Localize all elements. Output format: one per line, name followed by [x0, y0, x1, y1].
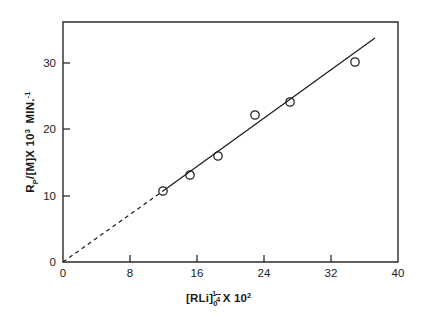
x-axis-multiplier-exponent: 2 — [247, 291, 251, 300]
figure-container: 0 8 16 24 32 40 0 10 20 30 — [0, 0, 424, 319]
y-axis-units-exponent: -1 — [23, 91, 32, 99]
x-tick-label-8: 8 — [127, 267, 133, 279]
x-tick-label-16: 16 — [191, 267, 204, 279]
y-axis-divider: /[M]X 10 — [24, 133, 36, 179]
x-axis-species: RLi — [190, 292, 209, 304]
x-tick-label-24: 24 — [258, 267, 271, 279]
y-tick-label-30: 30 — [43, 57, 56, 69]
x-tick-label-0: 0 — [60, 267, 66, 279]
x-axis-multiplier: X 10 — [223, 292, 247, 304]
y-tick-label-0: 0 — [50, 256, 56, 268]
y-tick-label-10: 10 — [43, 190, 56, 202]
x-tick-label-32: 32 — [325, 267, 338, 279]
x-tick-label-40: 40 — [392, 267, 405, 279]
scatter-plot: 0 8 16 24 32 40 0 10 20 30 — [0, 0, 424, 319]
y-tick-label-20: 20 — [43, 123, 56, 135]
x-axis-exponent-denominator: 4 — [216, 296, 220, 303]
y-axis-units: MIN. — [24, 98, 36, 123]
